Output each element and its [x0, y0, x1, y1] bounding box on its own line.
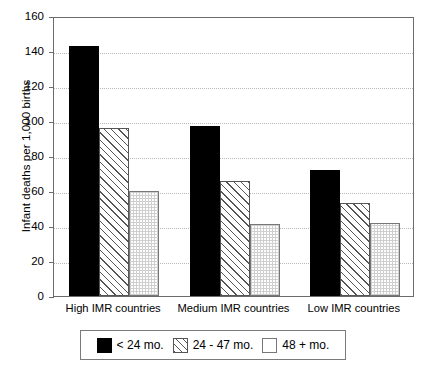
- bar-0-0: [69, 46, 99, 296]
- bar-2-0: [129, 191, 159, 296]
- y-tick-label: 0: [4, 290, 44, 302]
- bar-0-2: [310, 170, 340, 296]
- bar-1-1: [220, 181, 250, 297]
- legend: < 24 mo. 24 - 47 mo. 48 + mo.: [80, 330, 346, 360]
- gridline: [54, 53, 413, 54]
- bar-2-2: [370, 223, 400, 297]
- legend-label-series-1: 24 - 47 mo.: [193, 338, 254, 352]
- y-tick-label: 20: [4, 255, 44, 267]
- y-tick-mark: [49, 297, 54, 298]
- legend-swatch-series-2: [262, 338, 277, 353]
- y-tick-label: 60: [4, 185, 44, 197]
- legend-item: 24 - 47 mo.: [173, 338, 254, 353]
- y-tick-label: 160: [4, 10, 44, 22]
- x-category-label: Low IMR countries: [308, 302, 401, 314]
- legend-swatch-series-0: [97, 338, 112, 353]
- plot-inner: [54, 18, 413, 296]
- x-category-label: High IMR countries: [66, 302, 161, 314]
- plot-area: [53, 17, 414, 297]
- legend-label-series-0: < 24 mo.: [117, 338, 164, 352]
- legend-swatch-series-1: [173, 338, 188, 353]
- y-tick-label: 40: [4, 220, 44, 232]
- gridline: [54, 88, 413, 89]
- legend-item: < 24 mo.: [97, 338, 164, 353]
- x-category-label: Medium IMR countries: [178, 302, 290, 314]
- y-tick-label: 80: [4, 150, 44, 162]
- y-tick-label: 100: [4, 115, 44, 127]
- bar-chart: Infant deaths per 1,000 births 020406080…: [0, 0, 427, 377]
- bar-1-2: [340, 203, 370, 296]
- bar-2-1: [250, 224, 280, 296]
- bar-1-0: [99, 128, 129, 296]
- y-tick-label: 140: [4, 45, 44, 57]
- legend-label-series-2: 48 + mo.: [282, 338, 329, 352]
- bar-0-1: [190, 126, 220, 296]
- gridline: [54, 123, 413, 124]
- legend-item: 48 + mo.: [262, 338, 329, 353]
- y-tick-label: 120: [4, 80, 44, 92]
